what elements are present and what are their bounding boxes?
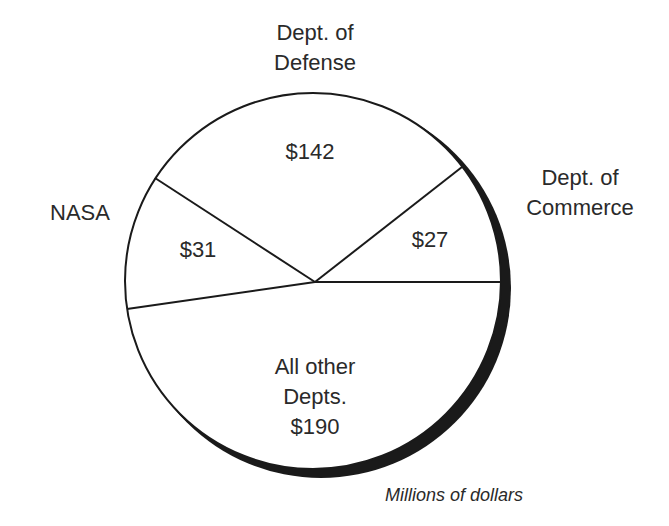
- label-other-line1: All other: [230, 352, 400, 382]
- label-defense-line1: Dept. of: [230, 18, 400, 48]
- value-defense: $142: [260, 138, 360, 166]
- value-other: $190: [230, 412, 400, 442]
- label-other: All other Depts. $190: [230, 352, 400, 442]
- label-defense: Dept. of Defense: [230, 18, 400, 78]
- label-other-line2: Depts.: [230, 382, 400, 412]
- label-commerce-line2: Commerce: [505, 193, 655, 223]
- value-nasa: $31: [148, 236, 248, 264]
- label-defense-line2: Defense: [230, 48, 400, 78]
- units-note: Millions of dollars: [385, 485, 523, 506]
- label-commerce: Dept. of Commerce: [505, 163, 655, 223]
- label-nasa: NASA: [30, 198, 130, 228]
- pie-chart: [0, 0, 669, 526]
- value-commerce: $27: [380, 226, 480, 254]
- label-commerce-line1: Dept. of: [505, 163, 655, 193]
